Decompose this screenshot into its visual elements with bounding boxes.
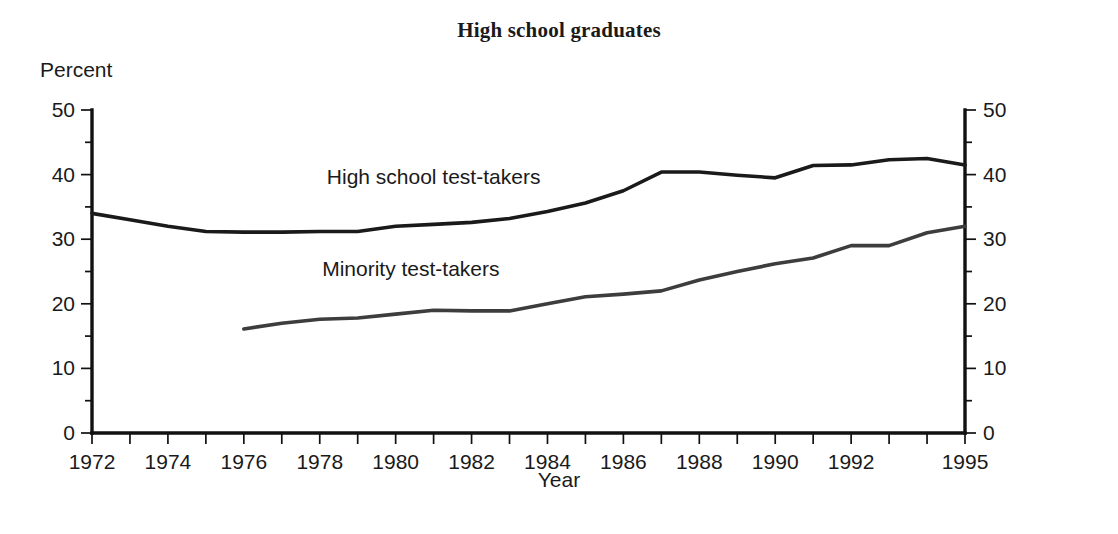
y-axis-left-tick-label: 50 — [52, 98, 75, 121]
y-axis-left-tick-label: 0 — [63, 421, 75, 444]
series-annotations: High school test-takersMinority test-tak… — [322, 165, 540, 280]
y-axis-left-tick-label: 10 — [52, 356, 75, 379]
series-annotation: Minority test-takers — [322, 257, 499, 280]
y-axis-left-tick-label: 40 — [52, 163, 75, 186]
x-axis-title: Year — [0, 468, 1118, 492]
x-axis-tick-labels: 1972197419761978198019821984198619881990… — [69, 433, 989, 473]
y-axis-right-tick-label: 40 — [983, 163, 1006, 186]
y-axis-right-tick-label: 50 — [983, 98, 1006, 121]
y-axis-right-tick-label: 30 — [983, 227, 1006, 250]
line-chart-plot: 01020304050 01020304050 1972197419761978… — [0, 0, 1118, 534]
y-axis-left-tick-label: 20 — [52, 292, 75, 315]
y-axis-left-tick-labels: 01020304050 — [52, 98, 92, 444]
series-annotation: High school test-takers — [327, 165, 541, 188]
y-axis-right-tick-label: 20 — [983, 292, 1006, 315]
y-axis-right-tick-label: 10 — [983, 356, 1006, 379]
y-axis-left-tick-label: 30 — [52, 227, 75, 250]
y-axis-right-tick-label: 0 — [983, 421, 995, 444]
y-axis-right-tick-labels: 01020304050 — [965, 98, 1006, 444]
chart-figure: High school graduates Percent 0102030405… — [0, 0, 1118, 534]
